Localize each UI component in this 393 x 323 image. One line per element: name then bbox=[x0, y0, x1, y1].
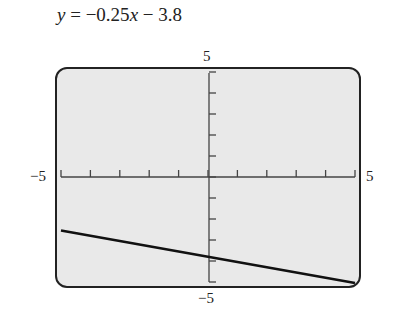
ymax-label: 5 bbox=[203, 48, 211, 65]
xmin-label: −5 bbox=[30, 168, 46, 185]
xmax-label: 5 bbox=[366, 168, 374, 185]
graph-screen bbox=[0, 0, 393, 323]
ymin-label: −5 bbox=[198, 290, 214, 307]
